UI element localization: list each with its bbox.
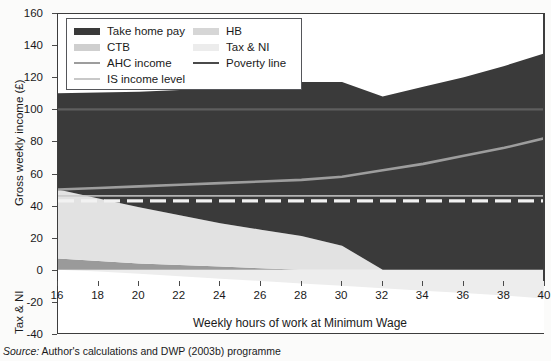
x-tick-label: 24 <box>204 289 234 301</box>
x-tick-label: 16 <box>42 289 72 301</box>
x-axis-title: Weekly hours of work at Minimum Wage <box>55 316 545 330</box>
x-tick-mark <box>260 281 261 286</box>
source-note: Source: Author's calculations and DWP (2… <box>3 345 281 357</box>
x-tick-label: 20 <box>123 289 153 301</box>
x-tick-label: 30 <box>326 289 356 301</box>
legend-swatch-icon <box>74 78 100 80</box>
x-tick-mark <box>138 281 139 286</box>
x-tick-mark <box>422 281 423 286</box>
x-tick-mark <box>463 281 464 286</box>
y-tick-mark <box>52 13 57 14</box>
y-tick-mark <box>52 174 57 175</box>
legend-label: CTB <box>107 41 130 54</box>
x-tick-mark <box>544 281 545 286</box>
source-text: Author's calculations and DWP (2003b) pr… <box>39 345 281 357</box>
legend-swatch-icon <box>74 28 100 35</box>
figure-root: Gross weekly income (£) Tax & NI -40-200… <box>0 0 551 361</box>
legend-label: Take home pay <box>107 25 185 38</box>
y-tick-mark <box>52 45 57 46</box>
legend-item: Poverty line <box>193 55 286 71</box>
legend-item: Take home pay <box>74 23 185 39</box>
x-tick-label: 40 <box>529 289 551 301</box>
legend-column-right: HBTax & NIPoverty line <box>193 23 286 71</box>
x-tick-label: 34 <box>407 289 437 301</box>
x-tick-mark <box>301 281 302 286</box>
y-tick-mark <box>52 334 57 335</box>
legend-swatch-icon <box>193 28 219 35</box>
x-tick-mark <box>219 281 220 286</box>
legend-column-left: Take home payCTBAHC incomeIS income leve… <box>74 23 185 87</box>
x-tick-label: 38 <box>488 289 518 301</box>
y-tick-mark <box>52 238 57 239</box>
chart-legend: Take home payCTBAHC incomeIS income leve… <box>66 18 302 90</box>
x-tick-mark <box>341 281 342 286</box>
legend-swatch-icon <box>74 62 100 65</box>
y-tick-mark <box>52 206 57 207</box>
x-tick-mark <box>179 281 180 286</box>
legend-swatch-icon <box>74 44 100 51</box>
x-tick-mark <box>57 281 58 286</box>
y-tick-mark <box>52 141 57 142</box>
legend-label: HB <box>226 25 242 38</box>
y-tick-mark <box>52 109 57 110</box>
legend-item: Tax & NI <box>193 39 286 55</box>
legend-item: IS income level <box>74 71 185 87</box>
y-tick-mark <box>52 302 57 303</box>
legend-item: HB <box>193 23 286 39</box>
x-tick-mark <box>98 281 99 286</box>
x-tick-mark <box>503 281 504 286</box>
legend-label: IS income level <box>107 73 185 86</box>
source-label: Source: <box>3 345 39 357</box>
x-tick-label: 32 <box>367 289 397 301</box>
y-tick-mark <box>52 77 57 78</box>
x-tick-label: 36 <box>448 289 478 301</box>
legend-label: Poverty line <box>226 57 286 70</box>
legend-item: CTB <box>74 39 185 55</box>
legend-label: Tax & NI <box>226 41 269 54</box>
legend-item: AHC income <box>74 55 185 71</box>
x-tick-mark <box>382 281 383 286</box>
legend-label: AHC income <box>107 57 172 70</box>
legend-swatch-icon <box>193 62 219 65</box>
legend-swatch-icon <box>193 44 219 51</box>
y-tick-mark <box>52 270 57 271</box>
x-tick-label: 26 <box>245 289 275 301</box>
x-tick-label: 22 <box>164 289 194 301</box>
x-tick-label: 28 <box>286 289 316 301</box>
x-tick-label: 18 <box>83 289 113 301</box>
